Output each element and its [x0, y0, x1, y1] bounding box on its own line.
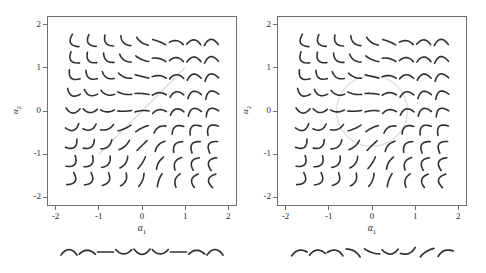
curve-glyph [68, 88, 81, 96]
curve-glyph [348, 110, 362, 111]
y-tickmark [43, 197, 47, 198]
curve-glyph [405, 174, 410, 187]
curve-glyph [208, 158, 216, 171]
curve-glyph [314, 156, 323, 167]
strip-curve-glyph [152, 250, 168, 254]
y-tick-label: -1 [251, 148, 271, 158]
curve-glyph [436, 91, 449, 99]
curve-glyph [136, 126, 149, 132]
right-panel: -2-1012210-1-2α1α2 [243, 0, 486, 273]
curve-glyph [300, 34, 309, 46]
curve-glyph [404, 142, 413, 153]
curve-glyph [188, 91, 201, 98]
strip-curve-glyph [420, 248, 434, 256]
y-tick-label: -1 [21, 148, 41, 158]
x-axis-title: α1 [277, 223, 467, 235]
curve-glyph [382, 93, 396, 96]
curve-glyph [174, 142, 183, 153]
y-tickmark [273, 111, 277, 112]
curve-glyph [438, 174, 445, 188]
curve-glyph [296, 108, 310, 113]
curve-glyph [208, 142, 217, 154]
curve-glyph [118, 110, 132, 111]
curve-glyph [153, 40, 166, 45]
curve-glyph [350, 156, 358, 168]
curve-glyph [418, 108, 431, 116]
curve-glyph [191, 142, 200, 153]
x-tickmark [228, 206, 229, 210]
y-tickmark [273, 24, 277, 25]
curve-glyph [383, 110, 397, 114]
y-tickmark [273, 154, 277, 155]
curve-glyph [83, 139, 94, 148]
curve-glyph [313, 139, 324, 148]
strip-curve-glyph [189, 250, 205, 254]
curve-glyph [314, 173, 322, 185]
x-tickmark [285, 206, 286, 210]
curve-glyph [367, 37, 379, 45]
curve-glyph [137, 37, 149, 45]
curve-glyph [332, 156, 340, 167]
curve-glyph [205, 57, 219, 64]
curve-glyph [69, 70, 80, 80]
curve-glyph [436, 108, 449, 117]
figure-canvas: -2-1012210-1-2α1α2-2-1012210-1-2α1α2 [0, 0, 486, 273]
curve-glyph [313, 109, 327, 113]
curve-glyph [349, 73, 362, 78]
strip-curve-glyph [365, 249, 380, 254]
curve-glyph [139, 173, 144, 186]
curve-glyph [382, 58, 396, 62]
y-axis-title: α2 [10, 95, 22, 125]
curve-glyph [154, 126, 166, 133]
curve-glyph [400, 75, 414, 79]
strip-curve-glyph [292, 250, 308, 256]
y-tick-label: 2 [21, 19, 41, 29]
y-tickmark [43, 67, 47, 68]
curve-glyph [206, 108, 219, 117]
curve-glyph [118, 125, 131, 131]
curve-glyph [120, 54, 132, 62]
curve-glyph [190, 125, 201, 135]
x-tick-label: -2 [277, 211, 295, 221]
x-tick-label: 0 [363, 211, 381, 221]
curve-glyph [66, 139, 77, 148]
curve-glyph [102, 71, 114, 78]
curve-glyph [314, 89, 327, 95]
curve-glyph [367, 141, 377, 151]
curve-glyph [418, 91, 431, 98]
curve-glyph [87, 34, 96, 46]
curve-glyph [119, 140, 129, 149]
curve-glyph [65, 124, 78, 131]
x-axis-title: α1 [47, 223, 237, 235]
curve-glyph [331, 140, 342, 149]
curve-glyph [369, 173, 374, 186]
curve-glyph [366, 56, 379, 62]
curve-glyph [87, 52, 97, 63]
curve-glyph [420, 125, 431, 135]
curve-glyph [438, 158, 446, 171]
x-tickmark [185, 206, 186, 210]
curve-glyph [152, 76, 166, 79]
x-tick-label: 1 [406, 211, 424, 221]
curve-glyph [348, 125, 361, 131]
curve-glyph [421, 142, 430, 153]
curve-glyph [351, 36, 361, 46]
curve-glyph [438, 142, 447, 154]
curve-glyph [404, 158, 411, 170]
x-tick-label: 1 [176, 211, 194, 221]
curve-glyph [170, 92, 184, 98]
curve-glyph [417, 74, 431, 80]
x-tick-label: -1 [90, 211, 108, 221]
curve-glyph [170, 109, 184, 115]
curve-glyph [84, 173, 92, 185]
y-tick-label: 1 [251, 62, 271, 72]
curve-glyph [332, 173, 339, 186]
strip-curve-glyph [400, 247, 415, 254]
x-tick-label: 2 [449, 211, 467, 221]
curve-glyph [383, 40, 396, 45]
curve-glyph [157, 174, 162, 187]
curve-glyph [169, 41, 183, 45]
curve-glyph [136, 56, 149, 62]
curve-glyph [208, 125, 219, 135]
strip-curve-glyph [207, 250, 223, 256]
